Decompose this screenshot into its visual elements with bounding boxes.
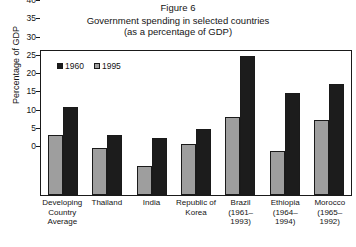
figure-container: Figure 6 Government spending in selected…: [0, 0, 356, 247]
x-tick-label: Thailand: [85, 198, 130, 247]
plot-area: 19601995: [40, 50, 352, 196]
bar-1995: [270, 151, 285, 195]
bar-1960: [196, 129, 211, 195]
y-tick-label: 20: [2, 69, 36, 77]
bar-1960: [240, 56, 255, 195]
bar-group: [41, 51, 85, 195]
bar-group: [307, 51, 351, 195]
bar-1960: [63, 107, 78, 195]
y-tick-label: 35: [2, 14, 36, 22]
y-tick-mark: [36, 37, 40, 38]
x-tick-label-line: (1961–1993): [219, 208, 262, 227]
y-tick-label: 5: [2, 124, 36, 132]
x-tick-label-line: Korea: [175, 208, 218, 218]
y-tick-label: 0: [2, 142, 36, 150]
x-tick-label-line: Average: [41, 217, 84, 227]
figure-title-line2: (as a percentage of GDP): [0, 26, 356, 37]
y-tick-label: 10: [2, 106, 36, 114]
bar-1995: [181, 144, 196, 195]
y-tick-label: 40: [2, 0, 36, 4]
x-tick-label-line: (1964–: [264, 208, 307, 218]
y-tick-label: 15: [2, 87, 36, 95]
x-tick-label: DevelopingCountryAverage: [40, 198, 85, 247]
x-tick-label-line: Country: [41, 208, 84, 218]
bar-group: [262, 51, 306, 195]
bar-group: [130, 51, 174, 195]
bar-1960: [107, 135, 122, 195]
x-tick-label-line: India: [130, 198, 173, 208]
x-tick-label: Brazil(1961–1993): [218, 198, 263, 247]
bar-1995: [48, 135, 63, 195]
x-tick-label-line: Brazil: [219, 198, 262, 208]
y-tick-label: 30: [2, 33, 36, 41]
bar-groups: [41, 51, 351, 195]
x-tick-label-line: Developing: [41, 198, 84, 208]
y-tick-label: 25: [2, 51, 36, 59]
x-tick-label: India: [129, 198, 174, 247]
x-tick-label-line: Republic of: [175, 198, 218, 208]
y-axis: 4035302520151050: [0, 0, 40, 146]
x-tick-label-line: Ethiopia: [264, 198, 307, 208]
bar-1960: [152, 138, 167, 195]
x-tick-label-line: Thailand: [86, 198, 129, 208]
bar-group: [174, 51, 218, 195]
y-tick-mark: [36, 0, 40, 1]
x-tick-label-line: Morocco: [308, 198, 351, 208]
bar-group: [85, 51, 129, 195]
bar-1995: [225, 117, 240, 195]
figure-title-line1: Government spending in selected countrie…: [0, 15, 356, 26]
bar-1960: [285, 93, 300, 195]
bar-group: [218, 51, 262, 195]
bar-1995: [92, 148, 107, 195]
x-tick-label: Republic ofKorea: [174, 198, 219, 247]
x-tick-label-line: 1994): [264, 217, 307, 227]
bar-1995: [137, 166, 152, 195]
figure-number: Figure 6: [0, 2, 356, 13]
x-tick-label: Ethiopia(1964–1994): [263, 198, 308, 247]
y-tick-mark: [36, 18, 40, 19]
x-tick-label-line: (1965–1992): [308, 208, 351, 227]
bar-1960: [329, 84, 344, 195]
bar-1995: [314, 120, 329, 195]
x-axis-labels: DevelopingCountryAverageThailandIndiaRep…: [40, 198, 352, 247]
x-tick-label: Morocco(1965–1992): [307, 198, 352, 247]
